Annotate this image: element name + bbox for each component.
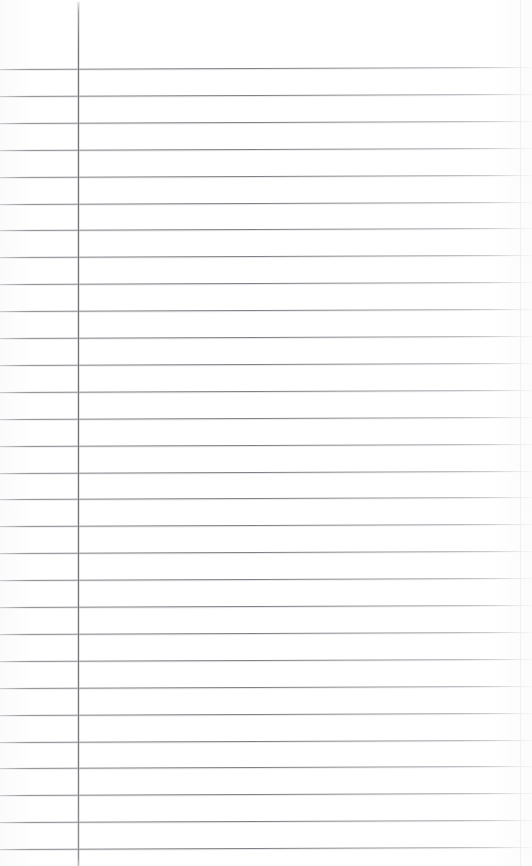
notebook-page [0,0,532,866]
vertical-margin-line [78,2,79,866]
scan-seam-artifact [520,0,521,866]
